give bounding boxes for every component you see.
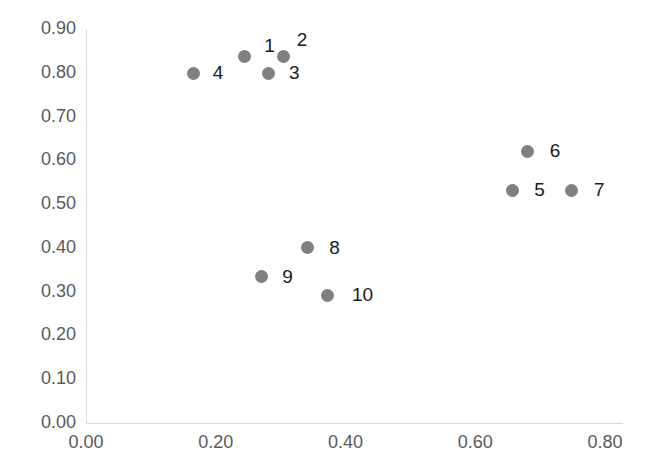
data-point-label: 9 <box>282 266 293 288</box>
data-point-label: 3 <box>289 62 300 84</box>
data-point-label: 6 <box>550 140 561 162</box>
data-point-marker[interactable] <box>262 67 275 80</box>
y-axis-tick-label: 0.90 <box>22 18 76 39</box>
y-axis-tick-label: 0.80 <box>22 62 76 83</box>
y-axis-tick-label: 0.10 <box>22 368 76 389</box>
x-axis-tick-label: 0.80 <box>575 432 635 453</box>
x-axis-tick-label: 0.60 <box>445 432 505 453</box>
y-axis-tick-label: 0.40 <box>22 237 76 258</box>
data-point-marker[interactable] <box>187 67 200 80</box>
data-point-label: 7 <box>594 179 605 201</box>
data-point-label: 1 <box>264 35 275 57</box>
y-axis-tick-label: 0.70 <box>22 106 76 127</box>
data-point-marker[interactable] <box>321 289 334 302</box>
data-point-label: 4 <box>213 62 224 84</box>
data-point-marker[interactable] <box>521 145 534 158</box>
y-axis-line <box>86 29 87 423</box>
y-axis-tick-label: 0.30 <box>22 281 76 302</box>
data-point-label: 8 <box>329 237 340 259</box>
y-axis-tick-label: 0.60 <box>22 149 76 170</box>
data-point-marker[interactable] <box>238 50 251 63</box>
data-point-label: 10 <box>352 284 373 306</box>
data-point-marker[interactable] <box>301 241 314 254</box>
x-axis-tick-label: 0.00 <box>56 432 116 453</box>
data-point-label: 2 <box>297 29 308 51</box>
data-point-marker[interactable] <box>565 184 578 197</box>
x-axis-tick-label: 0.20 <box>186 432 246 453</box>
x-axis-tick-label: 0.40 <box>316 432 376 453</box>
data-point-label: 5 <box>534 179 545 201</box>
y-axis-tick-label: 0.00 <box>22 412 76 433</box>
x-axis-line <box>86 423 623 424</box>
y-axis-tick-label: 0.50 <box>22 193 76 214</box>
plot-area: 0.000.100.200.300.400.500.600.700.800.90… <box>0 0 649 475</box>
data-point-marker[interactable] <box>506 184 519 197</box>
scatter-chart: 0.000.100.200.300.400.500.600.700.800.90… <box>0 0 649 475</box>
data-point-marker[interactable] <box>255 270 268 283</box>
y-axis-tick-label: 0.20 <box>22 324 76 345</box>
